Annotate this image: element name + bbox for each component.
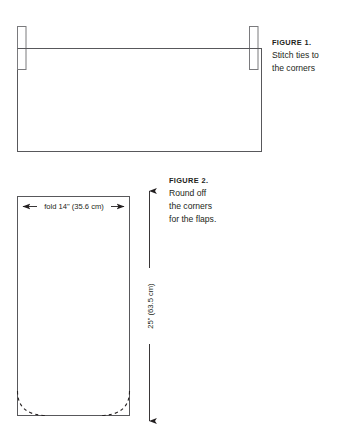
figure-1-label: FIGURE 1. xyxy=(272,37,319,49)
figure-1-caption: FIGURE 1. Stitch ties to the corners xyxy=(272,37,319,75)
figure-2: fold 14" (35.6 cm) 25" (63.5 cm) FIGURE … xyxy=(0,165,348,437)
figure-2-label: FIGURE 2. xyxy=(169,175,216,187)
figure-2-caption: FIGURE 2. Round off the corners for the … xyxy=(169,175,216,227)
figure-1-caption-line-1: Stitch ties to xyxy=(272,49,319,62)
height-dimension-label: 25" (63.5 cm) xyxy=(146,283,155,329)
figure-1-caption-line-2: the corners xyxy=(272,62,319,75)
figure-1-diagram xyxy=(0,0,348,165)
figure-1: FIGURE 1. Stitch ties to the corners xyxy=(0,0,348,165)
fabric-panel-shape xyxy=(18,49,262,152)
figure-2-caption-line-3: for the flaps. xyxy=(169,213,216,226)
panel-shape xyxy=(18,197,130,416)
figure-2-caption-line-2: the corners xyxy=(169,200,216,213)
width-dimension-label: fold 14" (35.6 cm) xyxy=(44,202,104,211)
illustration-sheet: FIGURE 1. Stitch ties to the corners xyxy=(0,0,348,437)
figure-2-caption-line-1: Round off xyxy=(169,187,216,200)
